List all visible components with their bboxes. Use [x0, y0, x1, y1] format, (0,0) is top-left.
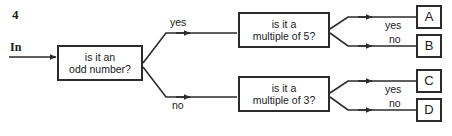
decision-multiple-of-5-line2: multiple of 5? [251, 30, 317, 42]
edge-label-m3-yes: yes [385, 83, 401, 95]
decision-multiple-of-5-line1: is it a [251, 18, 317, 30]
edge-odd-no-diagonal [143, 67, 184, 97]
edge-label-m5-yes: yes [385, 19, 401, 31]
decision-odd-number[interactable]: is it an odd number? [57, 45, 143, 81]
output-box-d[interactable]: D [416, 98, 442, 122]
decision-multiple-of-3-line1: is it a [251, 82, 317, 94]
flowchart-canvas: 4 In is it an [0, 0, 452, 136]
decision-multiple-of-3-line2: multiple of 3? [251, 94, 317, 106]
decision-multiple-of-5[interactable]: is it a multiple of 5? [238, 12, 330, 48]
edge-label-odd-yes: yes [170, 16, 186, 28]
decision-odd-number-line2: odd number? [67, 63, 133, 75]
output-box-b[interactable]: B [416, 34, 442, 58]
edge-label-m3-no: no [389, 97, 401, 109]
edge-odd-yes-diagonal [143, 33, 184, 63]
edge-m5-yes-diagonal [330, 17, 366, 29]
edge-label-odd-no: no [172, 99, 184, 111]
edge-m3-yes-diagonal [330, 81, 366, 93]
output-box-a[interactable]: A [416, 5, 442, 29]
output-box-c[interactable]: C [416, 69, 442, 93]
decision-multiple-of-3[interactable]: is it a multiple of 3? [238, 76, 330, 112]
edge-label-m5-no: no [389, 33, 401, 45]
decision-odd-number-line1: is it an [67, 51, 133, 63]
edge-m5-no-diagonal [330, 33, 366, 46]
edge-m3-no-diagonal [330, 97, 366, 110]
